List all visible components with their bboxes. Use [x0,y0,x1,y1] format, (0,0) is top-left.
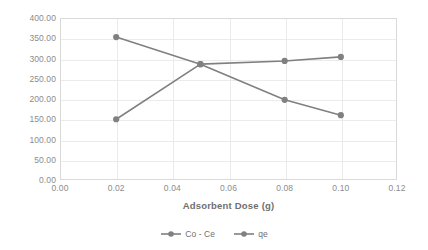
legend-label: Co - Ce [185,229,215,239]
y-axis-tick-label: 100.00 [4,135,56,145]
x-axis-tick-label: 0.04 [164,183,181,193]
x-axis-tick-label: 0.10 [332,183,349,193]
legend-label: qe [258,229,268,239]
data-point-marker [197,61,203,67]
legend-marker-icon [160,229,182,239]
x-axis-title: Adsorbent Dose (g) [60,200,397,211]
y-axis-labels: 0.0050.00100.00150.00200.00250.00300.003… [0,18,56,180]
series-line [116,37,341,115]
y-axis-tick-label: 350.00 [4,33,56,43]
y-axis-tick-label: 200.00 [4,94,56,104]
x-axis-tick-label: 0.08 [276,183,293,193]
y-axis-tick-label: 50.00 [4,155,56,165]
y-axis-tick-label: 0.00 [4,175,56,185]
data-point-marker [113,34,119,40]
series-layer [60,18,397,180]
data-point-marker [338,112,344,118]
line-chart: 0.0050.00100.00150.00200.00250.00300.003… [0,0,428,250]
x-axis-tick-label: 0.12 [389,183,406,193]
x-axis-labels: 0.000.020.040.060.080.100.12 [60,183,397,197]
legend-item[interactable]: Co - Ce [160,229,215,239]
data-point-marker [338,54,344,60]
data-point-marker [282,97,288,103]
y-axis-tick-label: 300.00 [4,54,56,64]
y-axis-tick-label: 250.00 [4,74,56,84]
y-axis-tick-label: 150.00 [4,114,56,124]
legend-item[interactable]: qe [233,229,268,239]
data-point-marker [282,58,288,64]
data-point-marker [113,116,119,122]
x-axis-tick-label: 0.00 [52,183,69,193]
legend-marker-icon [233,229,255,239]
x-axis-tick-label: 0.06 [220,183,237,193]
chart-legend: Co - Ceqe [0,229,428,239]
series-line [116,57,341,119]
x-axis-tick-label: 0.02 [108,183,125,193]
y-axis-tick-label: 400.00 [4,13,56,23]
